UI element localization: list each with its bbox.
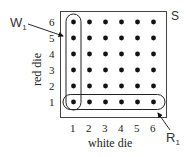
outcome-dot: [71, 52, 76, 57]
outcome-dot: [71, 36, 76, 41]
outcome-dot: [103, 52, 108, 57]
outcome-dot: [87, 36, 92, 41]
svg-text:4: 4: [49, 48, 55, 60]
outcome-dot: [135, 68, 140, 73]
svg-text:6: 6: [49, 16, 55, 28]
outcome-dot: [87, 68, 92, 73]
outcome-dot: [151, 36, 156, 41]
svg-text:1: 1: [70, 122, 76, 134]
outcome-dot: [103, 84, 108, 89]
outcome-dot: [151, 100, 156, 105]
x-axis-ticks: 1 2 3 4 5 6: [70, 122, 156, 134]
outcome-dot: [151, 84, 156, 89]
outcome-dot: [119, 20, 124, 25]
outcome-dot: [119, 36, 124, 41]
svg-text:5: 5: [49, 32, 55, 44]
outcome-dot: [135, 84, 140, 89]
outcome-dot: [119, 84, 124, 89]
event-r1-arrow: [158, 113, 170, 130]
event-r1-outline: [63, 95, 165, 110]
outcome-dot: [71, 68, 76, 73]
event-w1-label: W1: [10, 15, 27, 32]
outcome-dot: [119, 100, 124, 105]
svg-text:2: 2: [49, 80, 55, 92]
svg-text:5: 5: [134, 122, 140, 134]
event-w1-outline: [66, 14, 81, 110]
event-r1-label: R1: [166, 130, 180, 147]
outcome-dot: [119, 52, 124, 57]
outcome-dot: [103, 68, 108, 73]
svg-text:6: 6: [150, 122, 156, 134]
y-axis-ticks: 6 5 4 3 2 1: [49, 16, 55, 108]
svg-text:1: 1: [49, 96, 55, 108]
svg-text:4: 4: [118, 122, 124, 134]
outcome-dots: [71, 20, 156, 105]
outcome-dot: [151, 20, 156, 25]
outcome-dot: [151, 68, 156, 73]
outcome-dot: [151, 52, 156, 57]
y-axis-label: red die: [30, 53, 44, 86]
svg-text:2: 2: [86, 122, 92, 134]
outcome-dot: [135, 100, 140, 105]
outcome-dot: [135, 52, 140, 57]
outcome-dot: [71, 84, 76, 89]
sample-space-label: S: [171, 9, 179, 23]
outcome-dot: [87, 52, 92, 57]
outcome-dot: [119, 68, 124, 73]
svg-text:3: 3: [49, 64, 55, 76]
outcome-dot: [71, 100, 76, 105]
outcome-dot: [87, 20, 92, 25]
outcome-dot: [135, 36, 140, 41]
outcome-dot: [87, 100, 92, 105]
outcome-dot: [103, 20, 108, 25]
x-axis-label: white die: [88, 136, 132, 150]
svg-text:3: 3: [102, 122, 108, 134]
outcome-dot: [103, 100, 108, 105]
outcome-dot: [71, 20, 76, 25]
event-w1-arrow: [28, 24, 63, 36]
outcome-dot: [103, 36, 108, 41]
outcome-dot: [135, 20, 140, 25]
outcome-dot: [87, 84, 92, 89]
sample-space-box: [61, 12, 167, 118]
dice-sample-space-diagram: S W1 R1 6 5 4 3 2 1 1 2 3 4 5 6 white di…: [0, 0, 190, 157]
